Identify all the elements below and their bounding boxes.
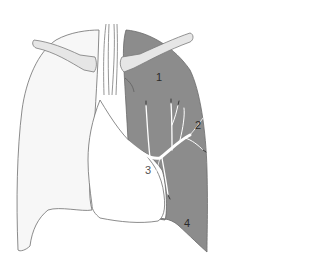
trachea — [104, 24, 118, 95]
label-2: 2 — [195, 120, 201, 131]
label-1: 1 — [156, 72, 162, 83]
label-4: 4 — [184, 218, 190, 229]
label-3: 3 — [145, 165, 151, 176]
